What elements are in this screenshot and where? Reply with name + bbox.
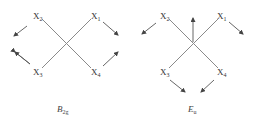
vibration-modes-figure: X2 X1 X3 X4 B2g X2 X1 X3 X4 Eu bbox=[0, 0, 259, 124]
caption-eu: Eu bbox=[187, 104, 197, 115]
displacement-arrow-icon bbox=[201, 80, 214, 92]
atom-label-x2: X2 bbox=[160, 11, 170, 22]
atom-label-x1: X1 bbox=[217, 11, 227, 22]
displacement-arrow-icon bbox=[15, 52, 30, 64]
displacement-arrow-icon bbox=[142, 23, 156, 34]
displacement-arrow-icon bbox=[103, 22, 118, 35]
atom-label-x4: X4 bbox=[217, 67, 227, 78]
b2g-diagram: X2 X1 X3 X4 B2g bbox=[14, 11, 118, 115]
atom-label-x3: X3 bbox=[160, 67, 170, 78]
atom-label-x1: X1 bbox=[91, 11, 101, 22]
displacement-arrow-icon bbox=[14, 26, 27, 36]
atom-label-x2: X2 bbox=[33, 11, 43, 22]
displacement-arrow-icon bbox=[229, 22, 243, 34]
displacement-arrow-icon bbox=[103, 52, 118, 66]
atom-label-x4: X4 bbox=[91, 67, 101, 78]
eu-diagram: X2 X1 X3 X4 Eu bbox=[142, 11, 243, 115]
displacement-arrow-icon bbox=[170, 80, 185, 92]
atom-label-x3: X3 bbox=[33, 67, 43, 78]
caption-b2g: B2g bbox=[57, 104, 69, 115]
